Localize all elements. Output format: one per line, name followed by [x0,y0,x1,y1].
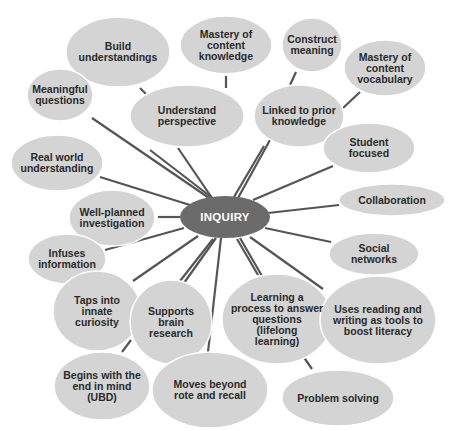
node-begins-with-end [54,352,150,420]
center-node-inquiry [180,196,270,238]
connector-line [238,140,270,198]
connector-line [265,228,331,242]
node-uses-reading-writing [320,276,436,364]
node-real-world-understanding [11,135,103,191]
node-problem-solving [282,370,394,426]
connector-line [237,239,258,275]
connector-line [343,92,360,108]
node-taps-innate-curiosity [53,271,141,351]
node-supports-brain-research [130,280,212,364]
node-meaningful-questions [27,69,93,121]
connector-line [178,148,212,198]
connector-line [234,146,264,197]
node-mastery-content-vocabulary [344,40,426,96]
node-understand-perspective [130,85,244,147]
connector-line [140,88,146,94]
node-construct-meaning [282,18,342,72]
node-learning-process [222,274,332,364]
connector-line [133,236,198,281]
node-social-networks [329,233,419,275]
node-collaboration [339,184,445,216]
inquiry-concept-map [0,0,450,431]
connector-line [253,166,333,200]
connector-line [184,238,216,283]
connector-line [290,72,296,85]
connector-line [150,150,215,200]
node-student-focused [323,123,415,173]
node-moves-beyond-rote [152,352,268,428]
node-mastery-content-knowledge [180,16,272,74]
connector-line [268,205,339,213]
